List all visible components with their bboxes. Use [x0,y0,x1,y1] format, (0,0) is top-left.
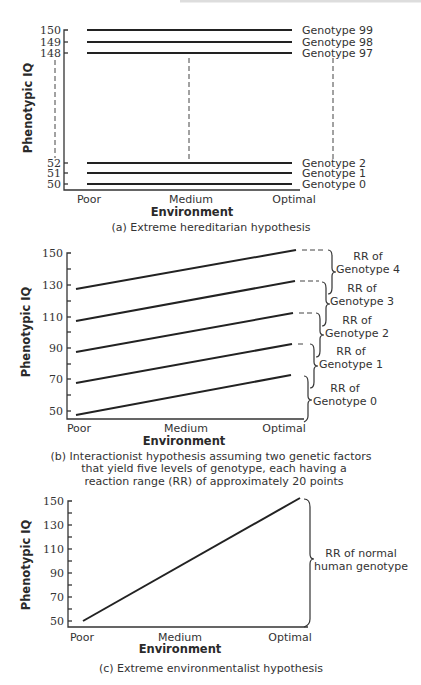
brace-icon [328,250,336,294]
x-tick: Poor [77,193,102,206]
brace-icon [304,376,312,422]
x-tick: Optimal [262,422,306,435]
chart-a-caption: (a) Extreme hereditarian hypothesis [111,221,310,234]
series-line [76,281,295,321]
chart-c-xlabel: Environment [139,642,222,656]
rr-label: RR of [330,382,361,395]
series-label: Genotype 0 [302,178,366,191]
rr-label: Genotype 2 [325,327,389,340]
rr-label: RR of [336,345,367,358]
chart-c: Phenotypic IQ 150 130 110 90 70 50 RR of… [19,495,408,675]
y-tick: 110 [43,543,64,556]
chart-b-caption: that yield five levels of genotype, each… [81,462,346,475]
y-tick: 110 [42,311,63,324]
brace-icon [322,282,330,326]
brace-icon [310,344,318,388]
chart-b-caption: reaction range (RR) of approximately 20 … [84,475,343,488]
rr-label: RR of normal [325,547,396,560]
x-tick: Optimal [268,631,312,644]
y-tick: 50 [50,615,64,628]
brace-icon [316,313,324,357]
rr-label: Genotype 4 [336,263,400,276]
brace-icon [304,499,314,627]
chart-b-xlabel: Environment [143,434,226,448]
chart-a-xlabel: Environment [151,205,234,219]
rr-label: Genotype 3 [330,295,394,308]
y-tick: 90 [50,567,64,580]
y-tick: 148 [40,47,61,60]
rr-label: RR of [347,282,378,295]
series-line [76,344,292,383]
rr-label: Genotype 0 [313,395,377,408]
chart-a: Phenotypic IQ 150 149 148 52 51 50 Genot… [21,24,373,234]
y-tick: 150 [42,247,63,260]
y-tick: 90 [49,342,63,355]
rr-label: Genotype 1 [319,358,383,371]
y-tick: 50 [47,178,61,191]
series-label: Genotype 97 [302,47,373,60]
series-line [76,313,293,352]
x-tick: Poor [70,631,95,644]
series-line [83,498,300,621]
series-line [76,250,296,289]
figure: Phenotypic IQ 150 149 148 52 51 50 Genot… [0,0,421,685]
x-tick: Poor [67,422,92,435]
chart-b: Phenotypic IQ 150 130 110 90 70 50 [19,247,400,488]
chart-a-ylabel: Phenotypic IQ [21,63,35,154]
y-tick: 130 [43,519,64,532]
y-tick: 50 [49,405,63,418]
rr-label: RR of [353,250,384,263]
y-tick: 130 [42,279,63,292]
rr-label: RR of [342,314,373,327]
series-line [76,375,291,415]
chart-c-caption: (c) Extreme environmentalist hypothesis [99,662,323,675]
x-tick: Optimal [272,193,316,206]
y-tick: 70 [50,591,64,604]
chart-b-ylabel: Phenotypic IQ [19,287,33,378]
y-tick: 150 [43,495,64,508]
y-tick: 70 [49,373,63,386]
rr-label: human genotype [314,560,408,573]
chart-c-ylabel: Phenotypic IQ [19,520,33,611]
